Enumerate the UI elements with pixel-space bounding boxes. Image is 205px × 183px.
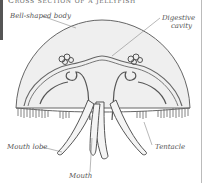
label-mouth-lobe: Mouth lobe: [7, 143, 48, 151]
label-mouth: Mouth: [69, 172, 92, 180]
label-digestive-cavity: Digestive cavity: [162, 14, 192, 30]
label-bell-shaped-body: Bell-shaped body: [10, 12, 71, 20]
label-tentacle: Tentacle: [155, 143, 185, 151]
